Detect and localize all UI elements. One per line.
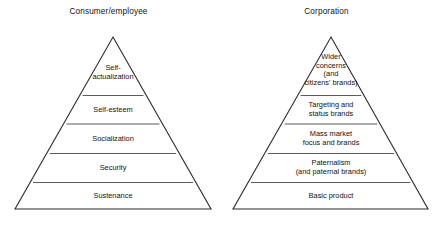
- tier-label-sustenance: Sustenance: [28, 192, 198, 201]
- tier-label-self-esteem: Self-esteem: [58, 106, 168, 115]
- tier-label-socialization: Socialization: [48, 135, 178, 144]
- tier-label-basic-product: Basic product: [246, 192, 416, 201]
- tier-label-mass-market: Mass market focus and brands: [263, 130, 399, 147]
- tier-label-wider-concerns: Wider concerns (and citizens' brands): [271, 53, 391, 87]
- tier-label-targeting-status: Targeting and status brands: [273, 101, 389, 118]
- tier-label-security: Security: [38, 164, 188, 173]
- tier-label-self-actualization: Self- actualization: [58, 64, 168, 81]
- panel-consumer-employee: Consumer/employee Self- actualization Se…: [0, 0, 217, 229]
- panel-corporation: Corporation Wider concerns (and citizens…: [218, 0, 435, 229]
- tier-label-paternalism: Paternalism (and paternal brands): [251, 159, 411, 176]
- two-pyramid-diagram: Consumer/employee Self- actualization Se…: [0, 0, 435, 229]
